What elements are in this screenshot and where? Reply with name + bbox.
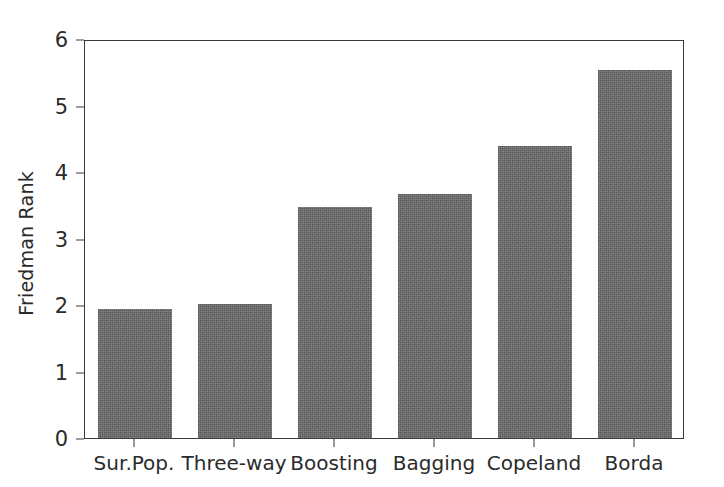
bar [298, 207, 373, 438]
x-tick-label: Bagging [393, 451, 475, 475]
x-tick-mark [234, 439, 235, 447]
bar [398, 194, 473, 438]
bar [198, 304, 273, 438]
x-tick-mark [634, 439, 635, 447]
x-tick-mark [334, 439, 335, 447]
x-tick-label: Sur.Pop. [94, 451, 175, 475]
y-tick-mark [76, 106, 84, 107]
y-tick-label: 5 [55, 95, 68, 119]
x-tick-label: Boosting [290, 451, 377, 475]
y-tick-label: 1 [55, 361, 68, 385]
y-tick-label: 3 [55, 228, 68, 252]
y-tick-mark [76, 239, 84, 240]
bar [98, 309, 173, 438]
y-tick-mark [76, 40, 84, 41]
y-tick-label: 6 [55, 28, 68, 52]
y-tick-label: 0 [55, 427, 68, 451]
x-tick-label: Borda [605, 451, 664, 475]
y-tick-mark [76, 173, 84, 174]
bar [498, 146, 573, 438]
bar [598, 70, 673, 438]
x-tick-mark [134, 439, 135, 447]
x-tick-label: Copeland [487, 451, 581, 475]
x-tick-mark [534, 439, 535, 447]
plot-area [84, 40, 684, 439]
y-tick-mark [76, 372, 84, 373]
y-tick-mark [76, 306, 84, 307]
y-tick-label: 2 [55, 294, 68, 318]
y-tick-label: 4 [55, 161, 68, 185]
y-tick-mark [76, 439, 84, 440]
x-axis-ticks: Sur.Pop.Three-wayBoostingBaggingCopeland… [84, 439, 684, 487]
y-axis-ticks: 0123456 [0, 0, 84, 487]
x-tick-label: Three-way [182, 451, 287, 475]
x-tick-mark [434, 439, 435, 447]
chart-figure: Friedman Rank 0123456 Sur.Pop.Three-wayB… [0, 0, 724, 487]
